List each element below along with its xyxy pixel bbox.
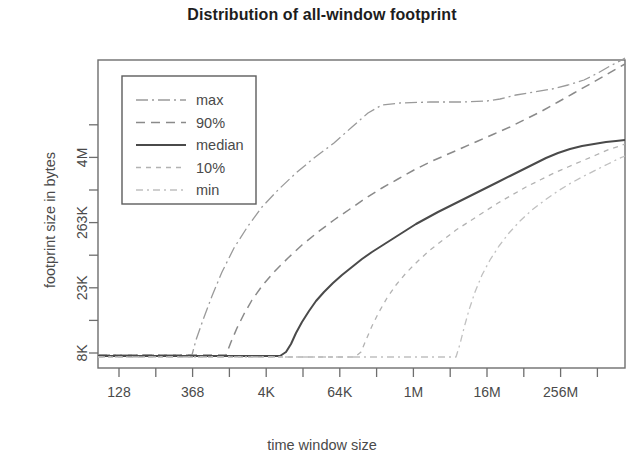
x-tick-label: 1M [404, 384, 423, 400]
y-tick-label: 23K [74, 275, 90, 301]
x-tick-label: 256M [543, 384, 578, 400]
legend-label-10pct: 10% [196, 160, 225, 176]
legend-label-max: max [196, 92, 224, 108]
x-tick-label: 368 [181, 384, 205, 400]
x-tick-label: 128 [107, 384, 131, 400]
plot-area: 1283684K64K1M16M256M8K23K263K4M max90%me… [0, 0, 644, 466]
x-tick-label: 4K [258, 384, 276, 400]
legend-label-min: min [196, 182, 219, 198]
x-tick-label: 16M [473, 384, 500, 400]
chart-legend: max90%median10%min [122, 76, 256, 204]
legend-label-median: median [196, 137, 244, 153]
y-tick-label: 8K [74, 344, 90, 362]
x-tick-label: 64K [327, 384, 353, 400]
chart-figure: Distribution of all-window footprint foo… [0, 0, 644, 466]
y-tick-label: 263K [74, 206, 90, 239]
legend-label-90pct: 90% [196, 115, 225, 131]
y-tick-label: 4M [74, 148, 90, 167]
